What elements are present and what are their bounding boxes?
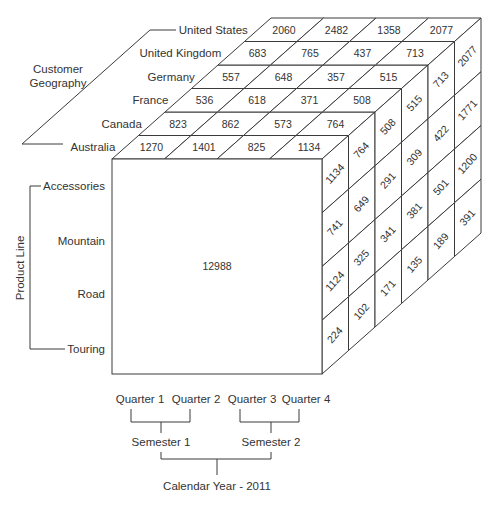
geography-label-united-states: United States — [179, 24, 248, 36]
top-cell-value: 1358 — [377, 24, 401, 36]
geography-label-united-kingdom: United Kingdom — [139, 47, 221, 59]
top-cell-value: 683 — [249, 47, 267, 59]
top-cell-value: 371 — [301, 94, 319, 106]
quarter-1-label: Quarter 1 — [116, 393, 165, 405]
top-cell-value: 648 — [275, 71, 293, 83]
semester-bracket — [161, 452, 271, 475]
product-line-axis-label: Product Line — [14, 236, 26, 301]
top-cell-value: 825 — [248, 141, 266, 153]
top-cell-value: 508 — [353, 94, 371, 106]
top-cell-value: 713 — [406, 47, 424, 59]
quarter-brackets — [131, 409, 299, 433]
product-touring-label: Touring — [67, 343, 105, 355]
geography-label-france: France — [133, 94, 169, 106]
top-cell-value: 618 — [248, 94, 266, 106]
semester-1-label: Semester 1 — [132, 436, 191, 448]
top-cell-value: 2060 — [272, 24, 296, 36]
geography-label-australia: Australia — [71, 141, 116, 153]
cube-canvas: Customer Geography AustraliaCanadaFrance… — [0, 0, 500, 506]
top-cell-value: 2077 — [430, 24, 454, 36]
top-cell-value: 437 — [354, 47, 372, 59]
product-accessories-label: Accessories — [43, 180, 105, 192]
quarter-4-label: Quarter 4 — [282, 393, 331, 405]
calendar-year-label: Calendar Year - 2011 — [163, 480, 271, 492]
geography-axis-label-line2: Geography — [30, 77, 87, 89]
top-cell-value: 536 — [196, 94, 214, 106]
product-road-label: Road — [78, 288, 106, 300]
olap-cube-diagram: Customer Geography AustraliaCanadaFrance… — [0, 0, 500, 506]
quarter-2-label: Quarter 2 — [172, 393, 221, 405]
product-line-bracket — [30, 186, 65, 349]
top-cell-value: 2482 — [325, 24, 349, 36]
top-cell-value: 1270 — [140, 141, 164, 153]
top-cell-value: 1401 — [192, 141, 216, 153]
top-cell-value: 573 — [274, 118, 292, 130]
total-value: 12988 — [202, 260, 231, 272]
top-cell-value: 1134 — [298, 141, 321, 153]
quarter-3-label: Quarter 3 — [228, 393, 277, 405]
geography-label-canada: Canada — [102, 118, 143, 130]
top-cell-value: 357 — [327, 71, 345, 83]
product-mountain-label: Mountain — [58, 235, 105, 247]
semester-2-label: Semester 2 — [242, 436, 301, 448]
top-cell-value: 862 — [222, 118, 240, 130]
front-face: 12988 — [112, 159, 322, 374]
top-cell-value: 764 — [327, 118, 345, 130]
top-cell-value: 557 — [222, 71, 240, 83]
top-cell-value: 823 — [169, 118, 187, 130]
top-cell-value: 765 — [301, 47, 319, 59]
geography-axis-label-line1: Customer — [33, 63, 83, 75]
geography-label-germany: Germany — [148, 71, 196, 83]
top-cell-value: 515 — [380, 71, 398, 83]
